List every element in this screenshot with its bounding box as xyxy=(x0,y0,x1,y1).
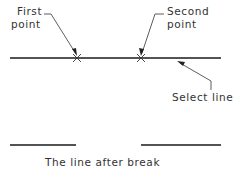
second-point-label-line2: point xyxy=(167,18,197,30)
select-line-leader-arrow-icon xyxy=(177,61,211,90)
first-point-label-line2: point xyxy=(11,18,41,30)
second-point-leader-arrow-icon xyxy=(139,14,164,56)
first-point-label-line1: First xyxy=(17,5,42,17)
second-point-label-line1: Second xyxy=(167,5,209,17)
select-line-label: Select line xyxy=(172,91,233,103)
break-line-diagram: First point Second point Select line The… xyxy=(0,0,240,175)
first-point-leader-arrow-icon xyxy=(44,14,77,56)
caption: The line after break xyxy=(44,156,160,168)
